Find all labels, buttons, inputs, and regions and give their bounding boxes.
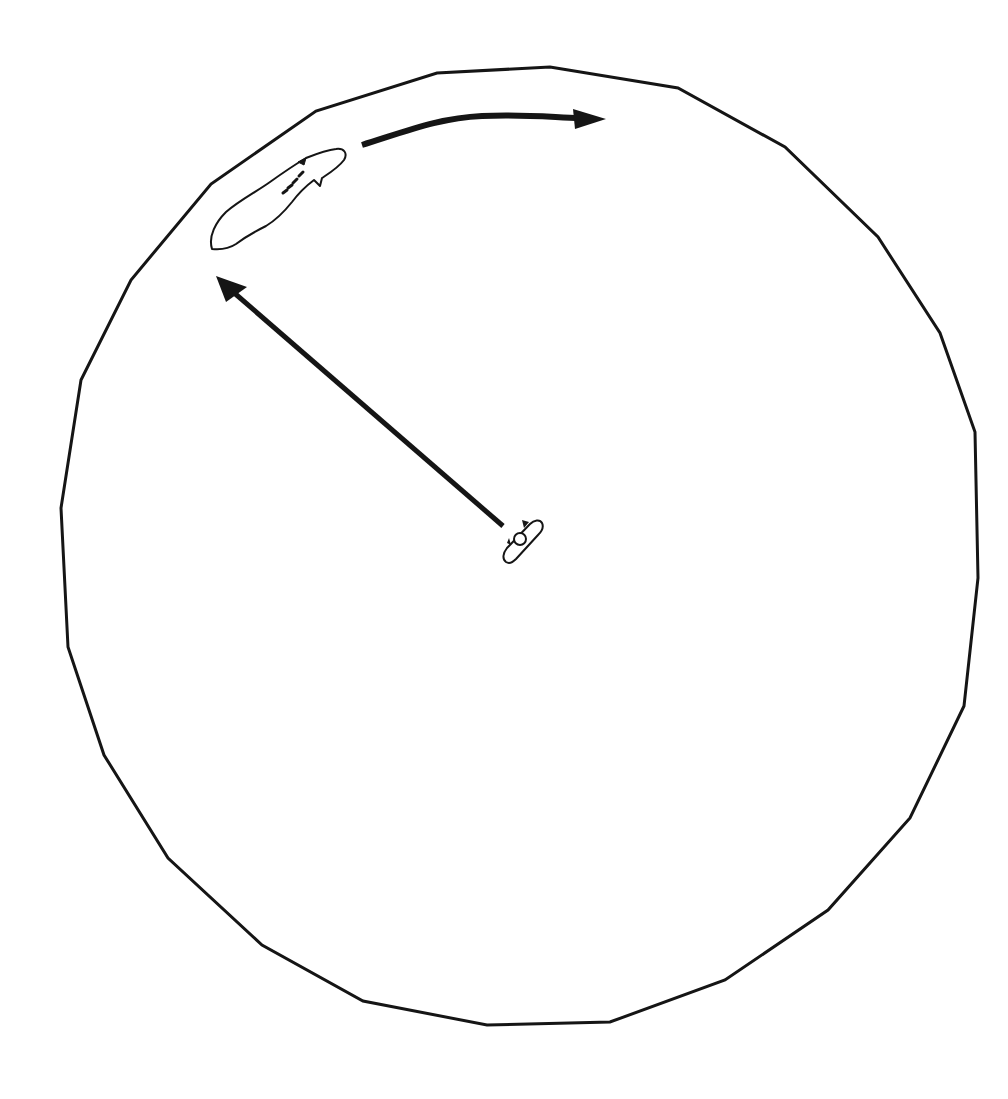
- diagram-canvas: [0, 0, 1008, 1099]
- background: [0, 0, 1008, 1099]
- vessel-porthole: [514, 533, 526, 545]
